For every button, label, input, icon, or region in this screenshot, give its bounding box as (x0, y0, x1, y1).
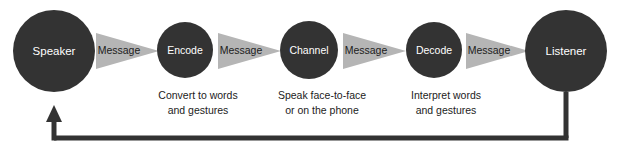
message-arrow-2: Message (218, 33, 281, 69)
caption-decode: Interpret words and gestures (411, 89, 481, 116)
communication-process-diagram: Message Message Message Message Speaker … (0, 0, 620, 150)
diagram-canvas: Message Message Message Message Speaker … (0, 0, 620, 150)
node-listener[interactable]: Listener (525, 10, 607, 92)
message-arrow-3-label: Message (345, 44, 388, 56)
message-arrow-4: Message (466, 33, 529, 69)
node-speaker[interactable]: Speaker (13, 10, 95, 92)
decode-label: Decode (416, 44, 452, 56)
feedback-arrowhead-icon (46, 105, 62, 122)
caption-encode-line-2: and gestures (168, 104, 229, 116)
node-encode[interactable]: Encode (157, 22, 213, 78)
speaker-label: Speaker (33, 45, 76, 57)
node-channel[interactable]: Channel (280, 21, 338, 79)
node-decode[interactable]: Decode (406, 22, 462, 78)
encode-label: Encode (167, 44, 203, 56)
caption-decode-line-1: Interpret words (411, 89, 481, 101)
caption-encode-line-1: Convert to words (158, 89, 237, 101)
message-arrow-2-label: Message (220, 44, 263, 56)
message-arrow-1: Message (96, 33, 159, 69)
message-arrow-1-label: Message (98, 44, 141, 56)
message-arrow-3: Message (343, 33, 406, 69)
caption-encode: Convert to words and gestures (158, 89, 237, 116)
listener-label: Listener (546, 45, 587, 57)
caption-decode-line-2: and gestures (416, 104, 477, 116)
caption-channel: Speak face-to-face or on the phone (278, 89, 366, 116)
caption-channel-line-2: or on the phone (285, 104, 359, 116)
message-arrow-4-label: Message (468, 44, 511, 56)
caption-channel-line-1: Speak face-to-face (278, 89, 366, 101)
channel-label: Channel (289, 44, 328, 56)
